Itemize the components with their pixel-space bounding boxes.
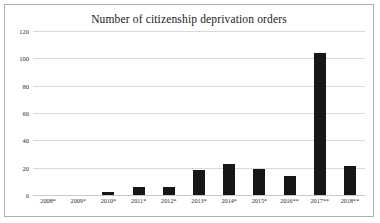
bar [193, 170, 205, 195]
x-tick-label: 2008* [33, 197, 63, 204]
bar [223, 164, 235, 195]
bar-slot [33, 31, 63, 195]
y-tick-label: 60 [0, 110, 33, 117]
y-tick-label: 20 [0, 164, 33, 171]
bar [133, 187, 145, 195]
x-tick-label: 2014* [214, 197, 244, 204]
bar [253, 169, 265, 195]
bar [314, 53, 326, 195]
bar [163, 187, 175, 195]
x-tick-label: 2011* [124, 197, 154, 204]
plot-area: 020406080100120 [33, 31, 365, 195]
bar-slot [93, 31, 123, 195]
x-tick-label: 2018** [335, 197, 365, 204]
bar [102, 192, 114, 195]
bar-slot [305, 31, 335, 195]
bar-slot [154, 31, 184, 195]
x-tick-label: 2013* [184, 197, 214, 204]
bar-slot [63, 31, 93, 195]
chart-frame: Number of citizenship deprivation orders… [4, 4, 374, 217]
bar-slot [275, 31, 305, 195]
y-tick-label: 80 [0, 82, 33, 89]
y-tick-label: 40 [0, 137, 33, 144]
bar [344, 166, 356, 195]
bar-slot [184, 31, 214, 195]
bar-slot [124, 31, 154, 195]
gridline-0 [33, 195, 365, 196]
y-tick-label: 0 [0, 192, 33, 199]
y-tick-label: 120 [0, 28, 33, 35]
bar-slot [335, 31, 365, 195]
x-tick-label: 2016** [275, 197, 305, 204]
x-tick-label: 2010* [93, 197, 123, 204]
bar-slot [214, 31, 244, 195]
bar [284, 176, 296, 195]
x-axis-tick-labels: 2008*2009*2010*2011*2012*2013*2014*2015*… [33, 197, 365, 204]
x-tick-label: 2017** [305, 197, 335, 204]
x-tick-label: 2015* [244, 197, 274, 204]
bar-slot [244, 31, 274, 195]
x-tick-label: 2009* [63, 197, 93, 204]
y-tick-label: 100 [0, 55, 33, 62]
x-tick-label: 2012* [154, 197, 184, 204]
bar-series [33, 31, 365, 195]
chart-title: Number of citizenship deprivation orders [5, 13, 373, 25]
